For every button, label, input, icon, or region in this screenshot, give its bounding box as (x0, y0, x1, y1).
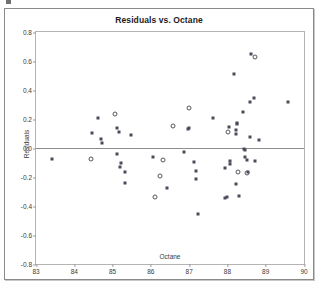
data-point-filled (118, 130, 121, 133)
data-point-filled (243, 148, 246, 151)
data-point-filled (119, 166, 122, 169)
data-point-filled (241, 110, 244, 113)
data-point-filled (223, 166, 226, 169)
data-point-filled (212, 116, 215, 119)
x-axis-tick: 83 (32, 268, 39, 275)
y-axis-tick: 0.8 (23, 29, 32, 36)
x-axis-tick: 88 (224, 268, 231, 275)
data-point-open (161, 157, 166, 162)
x-axis-tick: 86 (147, 268, 154, 275)
x-axis-tick: 90 (300, 268, 307, 275)
data-point-filled (233, 72, 236, 75)
data-point-filled (90, 132, 93, 135)
data-point-filled (258, 139, 261, 142)
data-point-open (244, 171, 249, 176)
data-point-open (171, 123, 176, 128)
data-point-filled (245, 159, 248, 162)
y-axis-tick: 0.4 (23, 87, 32, 94)
data-point-filled (124, 171, 127, 174)
data-point-filled (196, 213, 199, 216)
data-point-filled (51, 157, 54, 160)
x-axis-label: Octane (35, 253, 305, 260)
y-axis-tick: 0.2 (23, 116, 32, 123)
data-point-filled (123, 182, 126, 185)
data-point-filled (151, 156, 154, 159)
data-point-filled (235, 132, 238, 135)
data-point-filled (248, 101, 251, 104)
data-point-filled (192, 161, 195, 164)
data-point-filled (236, 122, 239, 125)
chart-figure-frame: Residuals vs. Octane Residuals 0.80.60.4… (4, 8, 314, 280)
zero-reference-line (36, 148, 304, 149)
data-point-filled (116, 152, 119, 155)
y-axis-tick: -0.8 (21, 261, 32, 268)
data-point-filled (194, 170, 197, 173)
data-point-filled (183, 151, 186, 154)
data-point-open (236, 170, 241, 175)
data-point-filled (119, 161, 122, 164)
data-point-filled (227, 125, 230, 128)
y-axis-tick: -0.2 (21, 174, 32, 181)
data-point-open (153, 194, 158, 199)
data-point-filled (129, 133, 132, 136)
data-point-filled (166, 187, 169, 190)
data-point-filled (100, 137, 103, 140)
data-point-filled (226, 196, 229, 199)
y-axis-tick: -0.4 (21, 203, 32, 210)
data-point-filled (228, 162, 231, 165)
x-axis-tick: 89 (262, 268, 269, 275)
x-axis-tick: 87 (186, 268, 193, 275)
data-point-filled (188, 126, 191, 129)
data-point-filled (286, 100, 289, 103)
data-point-open (158, 173, 163, 178)
data-point-filled (249, 135, 252, 138)
data-point-open (112, 111, 117, 116)
data-point-filled (237, 194, 240, 197)
data-point-open (226, 130, 231, 135)
y-axis-tick: 0.0 (23, 145, 32, 152)
data-point-filled (253, 96, 256, 99)
data-point-open (187, 105, 192, 110)
y-axis-tick: -0.6 (21, 232, 32, 239)
chart-title: Residuals vs. Octane (5, 15, 313, 25)
screenshot-artifact (6, 0, 11, 4)
data-point-filled (97, 116, 100, 119)
y-axis-tick: 0.6 (23, 58, 32, 65)
x-axis-tick: 85 (109, 268, 116, 275)
data-point-open (252, 54, 257, 59)
data-point-filled (253, 160, 256, 163)
data-point-filled (195, 178, 198, 181)
data-point-open (88, 157, 93, 162)
scatter-plot-panel: 0.80.60.40.20.0-0.2-0.4-0.6-0.8 83848586… (35, 31, 305, 265)
x-axis-tick: 84 (71, 268, 78, 275)
data-point-filled (234, 182, 237, 185)
data-point-filled (100, 142, 103, 145)
